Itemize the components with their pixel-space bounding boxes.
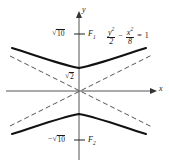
focus-top-subscript: 1 <box>93 34 96 40</box>
equation-first-fraction: y2 2 <box>106 27 116 46</box>
hyperbola-figure: y x √10 F1 − √10 F2 √2 y2 2 − x2 8 <box>0 0 169 168</box>
y-axis <box>76 11 82 160</box>
equation-second-denominator: 8 <box>126 37 134 46</box>
focus-bottom-value-label: − √10 <box>48 135 65 144</box>
sqrt-2: √2 <box>65 72 74 81</box>
equation-second-numerator: x2 <box>125 27 135 37</box>
equation-equals: = <box>136 32 143 40</box>
hyperbola-equation: y2 2 − x2 8 = 1 <box>106 27 150 46</box>
vertex-value-label: √2 <box>65 72 74 81</box>
focus-bottom-name-label: F2 <box>88 136 96 146</box>
focus-top-value-label: √10 <box>52 29 65 38</box>
y-axis-label: y <box>82 6 86 14</box>
focus-bottom-subscript: 2 <box>93 140 96 146</box>
x-axis-label: x <box>159 85 163 93</box>
sqrt-10-bottom: √10 <box>53 135 66 144</box>
sqrt-10-top: √10 <box>52 29 65 38</box>
equation-second-fraction: x2 8 <box>125 27 135 46</box>
equation-operator: − <box>117 32 124 40</box>
x-axis <box>6 88 157 94</box>
hyperbola-plot <box>0 0 169 168</box>
equation-right-side: 1 <box>144 32 150 40</box>
focus-top-name-label: F1 <box>88 30 96 40</box>
equation-first-numerator: y2 <box>106 27 116 37</box>
equation-first-denominator: 2 <box>107 37 115 46</box>
